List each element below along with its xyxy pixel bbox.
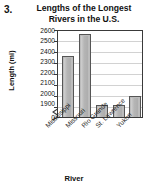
gridline-2400: [58, 52, 142, 53]
y-tick-label-2600: 2600: [3, 27, 55, 34]
y-tick-label-2100: 2100: [3, 79, 55, 86]
y-tick-label-1900: 1900: [3, 100, 55, 107]
y-tick-label-2000: 2000: [3, 90, 55, 97]
gridline-2500: [58, 41, 142, 42]
bar-missouri: [79, 34, 91, 117]
y-tick-label-2400: 2400: [3, 48, 55, 55]
chart-figure: 3. Lengths of the Longest Rivers in the …: [0, 0, 148, 190]
y-tick-label-2300: 2300: [3, 58, 55, 65]
y-tick-label-2200: 2200: [3, 69, 55, 76]
y-tick-label-2500: 2500: [3, 37, 55, 44]
y-axis-tick-labels: 2600 2500 2400 2300 2200 2100 2000 1900 …: [0, 0, 55, 190]
x-axis-label: River: [0, 174, 148, 183]
